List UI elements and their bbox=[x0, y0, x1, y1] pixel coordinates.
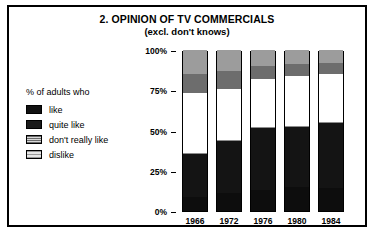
bar-segment-quite-like bbox=[285, 126, 309, 187]
bar-segment-like bbox=[183, 197, 207, 211]
bar-segment-don-t-really-like bbox=[319, 74, 343, 122]
y-axis-tick-mark bbox=[171, 212, 176, 213]
bar-segment-quite-like bbox=[217, 140, 241, 193]
chart-frame: 2. OPINION OF TV COMMERCIALS (excl. don'… bbox=[7, 5, 367, 227]
bar-segment-don-t-really-like bbox=[217, 89, 241, 141]
bar-segment-don-t-really-like bbox=[183, 93, 207, 153]
bar-segment-like bbox=[251, 190, 275, 211]
chart-title: 2. OPINION OF TV COMMERCIALS bbox=[9, 13, 365, 25]
dont-really-like-swatch-icon bbox=[26, 135, 42, 144]
x-axis-tick-label: 1984 bbox=[314, 216, 348, 226]
y-axis-tick-mark bbox=[171, 172, 176, 173]
bar-1984 bbox=[318, 51, 344, 212]
legend-label-like: like bbox=[49, 105, 63, 115]
legend-item-dislike: dislike bbox=[26, 148, 156, 161]
y-axis-tick-label: 75% bbox=[150, 86, 167, 96]
bar-segment-dislike-upper bbox=[217, 50, 241, 71]
legend-item-quite-like: quite like bbox=[26, 118, 156, 131]
bar-segment-quite-like bbox=[183, 153, 207, 196]
quite-like-swatch-icon bbox=[26, 120, 42, 129]
bar-segment-dislike-upper bbox=[285, 50, 309, 64]
legend: % of adults who like quite like don't re… bbox=[26, 87, 156, 163]
bar-1972 bbox=[216, 51, 242, 212]
bar-segment-like bbox=[217, 193, 241, 211]
x-axis: 19661972197619801984 bbox=[179, 216, 351, 230]
legend-item-like: like bbox=[26, 103, 156, 116]
bar-segment-dislike-upper bbox=[251, 50, 275, 66]
x-axis-tick-label: 1972 bbox=[212, 216, 246, 226]
legend-label-dont-really-like: don't really like bbox=[49, 135, 108, 145]
legend-label-quite-like: quite like bbox=[49, 120, 85, 130]
bar-1980 bbox=[284, 51, 310, 212]
x-axis-tick-label: 1976 bbox=[246, 216, 280, 226]
x-axis-tick-label: 1980 bbox=[280, 216, 314, 226]
bar-1966 bbox=[182, 51, 208, 212]
bar-segment-dislike-upper bbox=[319, 50, 343, 63]
bar-segment-don-t-really-like bbox=[251, 79, 275, 127]
y-axis-tick-label: 100% bbox=[145, 46, 167, 56]
x-axis-tick-label: 1966 bbox=[178, 216, 212, 226]
y-axis-tick-label: 50% bbox=[150, 127, 167, 137]
y-axis-tick-label: 0% bbox=[155, 207, 167, 217]
dislike-swatch-icon bbox=[26, 150, 42, 159]
y-axis: 100%75%50%25%0% bbox=[139, 51, 179, 212]
legend-label-dislike: dislike bbox=[49, 150, 74, 160]
y-axis-tick-mark bbox=[171, 51, 176, 52]
like-swatch-icon bbox=[26, 105, 42, 114]
y-axis-tick-mark bbox=[171, 91, 176, 92]
bar-segment-quite-like bbox=[319, 122, 343, 188]
bar-segment-dislike-upper bbox=[183, 50, 207, 74]
bar-segment-like bbox=[285, 187, 309, 211]
legend-title: % of adults who bbox=[26, 87, 156, 97]
y-axis-tick-label: 25% bbox=[150, 167, 167, 177]
plot-area bbox=[179, 51, 351, 212]
bar-segment-like bbox=[319, 188, 343, 211]
bar-segment-don-t-really-like bbox=[285, 76, 309, 126]
chart-subtitle: (excl. don't knows) bbox=[9, 26, 365, 37]
bar-segment-quite-like bbox=[251, 127, 275, 190]
y-axis-tick-mark bbox=[171, 132, 176, 133]
bar-1976 bbox=[250, 51, 276, 212]
legend-item-dont-really-like: don't really like bbox=[26, 133, 156, 146]
